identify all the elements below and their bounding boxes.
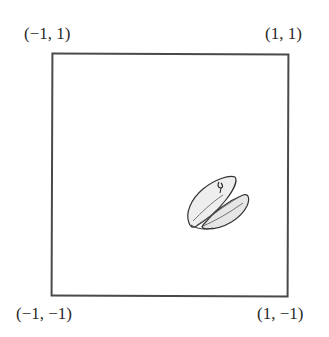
corner-label-bottom-right: (1, −1) [257, 305, 303, 323]
corner-label-top-right: (1, 1) [265, 25, 302, 43]
corner-label-bottom-left: (−1, −1) [16, 305, 72, 323]
mussel-shell-icon [183, 173, 251, 233]
corner-label-top-left: (−1, 1) [24, 25, 70, 43]
viewport-square [51, 53, 290, 298]
